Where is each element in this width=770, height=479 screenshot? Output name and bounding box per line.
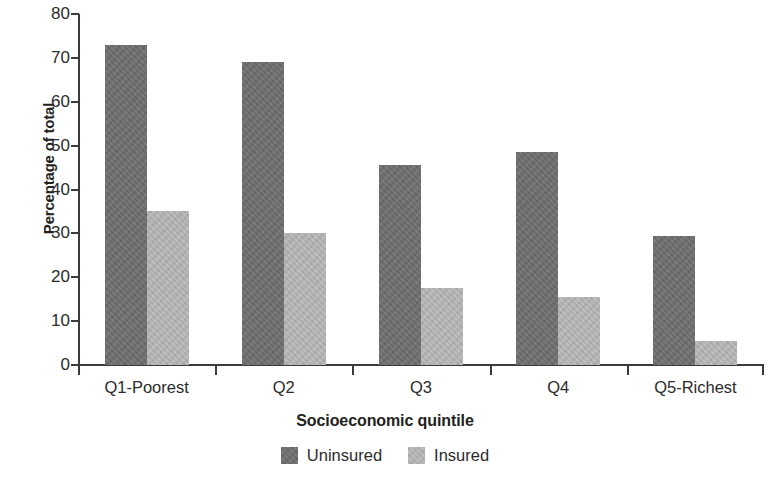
x-axis-tick-mark [762, 366, 764, 375]
y-axis-tick-label: 0 [26, 356, 70, 373]
x-axis-title: Socioeconomic quintile [0, 412, 770, 430]
legend-swatch-icon [281, 447, 298, 464]
y-axis-tick-label: 10 [26, 312, 70, 329]
y-axis-tick-label: 40 [26, 181, 70, 198]
bar-uninsured-q4 [516, 152, 558, 365]
x-axis-category-label: Q5-Richest [627, 378, 764, 397]
bar-uninsured-q1-poorest [105, 45, 147, 365]
y-axis-tick-label: 20 [26, 268, 70, 285]
x-axis-category-label: Q4 [490, 378, 627, 397]
chart-legend: UninsuredInsured [0, 447, 770, 464]
legend-item-insured[interactable]: Insured [408, 447, 489, 464]
bar-chart: Percentage of total 01020304050607080 Q1… [0, 0, 770, 479]
bar-uninsured-q2 [242, 62, 284, 365]
legend-label: Insured [434, 447, 489, 464]
bar-group [379, 14, 463, 365]
bar-uninsured-q3 [379, 165, 421, 365]
x-axis-tick-mark [352, 366, 354, 375]
legend-swatch-icon [408, 447, 425, 464]
x-axis-category-label: Q3 [352, 378, 489, 397]
y-axis-tick-label: 60 [26, 93, 70, 110]
bar-uninsured-q5-richest [653, 236, 695, 365]
bar-insured-q5-richest [695, 341, 737, 365]
y-axis-tick-label: 50 [26, 137, 70, 154]
bar-insured-q3 [421, 288, 463, 365]
y-axis-tick-label: 80 [26, 5, 70, 22]
bar-group [653, 14, 737, 365]
x-axis-tick-mark [78, 366, 80, 375]
bar-group [242, 14, 326, 365]
y-axis-tick-label: 70 [26, 49, 70, 66]
x-axis-category-label: Q1-Poorest [78, 378, 215, 397]
bar-insured-q1-poorest [147, 211, 189, 365]
legend-label: Uninsured [307, 447, 382, 464]
legend-item-uninsured[interactable]: Uninsured [281, 447, 382, 464]
x-axis-category-label: Q2 [215, 378, 352, 397]
y-axis-tick-label: 30 [26, 224, 70, 241]
x-axis-tick-mark [490, 366, 492, 375]
x-axis-tick-mark [627, 366, 629, 375]
y-axis-tick-labels: 01020304050607080 [20, 0, 70, 380]
plot-area [78, 14, 764, 365]
x-axis-tick-mark [215, 366, 217, 375]
bar-group [105, 14, 189, 365]
bar-insured-q4 [558, 297, 600, 365]
bar-insured-q2 [284, 233, 326, 365]
bar-group [516, 14, 600, 365]
